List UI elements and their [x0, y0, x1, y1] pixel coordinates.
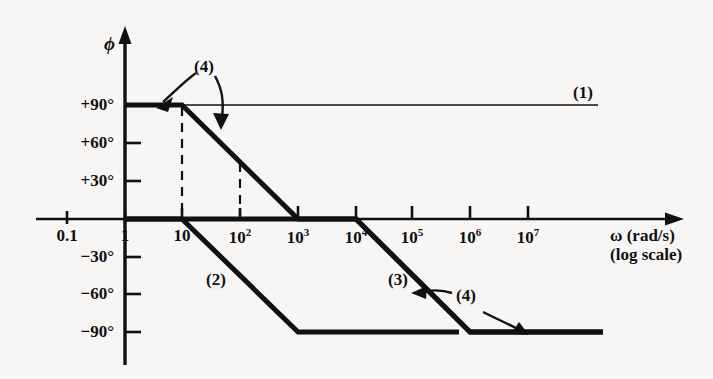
- curve-label-3: (3): [388, 270, 408, 289]
- x-tick-label-1e7-exponent: 7: [534, 226, 540, 238]
- x-tick-label-1e5-mantissa: 10: [401, 228, 418, 247]
- axes-group: [36, 26, 684, 365]
- curve-label-1: (1): [573, 83, 593, 102]
- x-tick-label-10: 10: [154, 226, 210, 245]
- x-tick-label-1e2-mantissa: 10: [229, 228, 246, 247]
- x-tick-label-10-mantissa: 10: [174, 226, 191, 245]
- x-tick-label-1e6: 106: [442, 226, 498, 247]
- arrow-4-to-lower-plateau-head: [511, 322, 529, 335]
- x-tick-label-1e6-exponent: 6: [476, 226, 482, 238]
- arrow-4-to-slope: [215, 76, 223, 118]
- x-tick-label-0p1: 0.1: [39, 226, 95, 245]
- y-axis-arrowhead: [119, 26, 132, 44]
- y-tick-label-plus90: +90°: [46, 95, 114, 114]
- arrow-4-to-lower-plateau: [483, 312, 518, 329]
- bode-phase-plot-figure: ϕ +90° +60° +30° −30° −60° −90° 0.1 1 10…: [0, 0, 713, 379]
- x-tick-label-1e3-mantissa: 10: [287, 228, 304, 247]
- curve-label-2: (2): [206, 270, 226, 289]
- dashed-guide-lines: [182, 107, 240, 218]
- x-axis-arrowhead: [665, 213, 684, 226]
- x-axis-title-line2: (log scale): [610, 245, 682, 264]
- x-tick-label-1e5-exponent: 5: [418, 226, 424, 238]
- y-tick-label-minus30: −30°: [46, 247, 114, 266]
- arrow-4-to-slope-head: [213, 113, 229, 130]
- x-tick-label-0p1-mantissa: 0.1: [56, 226, 77, 245]
- y-tick-label-plus30: +30°: [46, 171, 114, 190]
- x-tick-label-1e3-exponent: 3: [304, 226, 310, 238]
- x-tick-label-1-mantissa: 1: [121, 226, 130, 245]
- x-tick-label-1: 1: [97, 226, 153, 245]
- curve-label-4-top: (4): [194, 57, 214, 76]
- x-tick-label-1e4-mantissa: 10: [345, 228, 362, 247]
- x-tick-label-1e2-exponent: 2: [246, 226, 252, 238]
- annotation-arrows-top: [156, 73, 229, 130]
- x-tick-label-1e5: 105: [384, 226, 440, 247]
- x-axis-title-line1: ω (rad/s): [610, 226, 675, 245]
- y-tick-label-minus60: −60°: [46, 284, 114, 303]
- curve-label-4-right: (4): [456, 286, 476, 305]
- x-tick-label-1e4-exponent: 4: [362, 226, 368, 238]
- arrow-4-to-series3-slope-head: [411, 286, 427, 299]
- y-tick-label-minus90: −90°: [46, 322, 114, 341]
- x-tick-label-1e7: 107: [500, 226, 556, 247]
- y-axis-symbol: ϕ: [104, 33, 115, 54]
- arrow-4-to-plateau: [163, 73, 196, 102]
- x-tick-label-1e3: 103: [270, 226, 326, 247]
- x-tick-label-1e7-mantissa: 10: [517, 228, 534, 247]
- y-tick-label-plus60: +60°: [46, 133, 114, 152]
- x-tick-label-1e6-mantissa: 10: [459, 228, 476, 247]
- x-tick-label-1e2: 102: [212, 226, 268, 247]
- x-tick-label-1e4: 104: [328, 226, 384, 247]
